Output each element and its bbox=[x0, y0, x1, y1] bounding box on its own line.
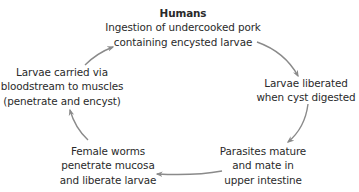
node-text: upper intestine bbox=[220, 173, 306, 187]
arrow-liberated-to-mature bbox=[288, 104, 308, 142]
node-parasites-mature: Parasites mature and mate in upper intes… bbox=[220, 144, 306, 187]
node-text: bloodstream to muscles bbox=[1, 79, 124, 93]
node-text: and liberate larvae bbox=[60, 173, 157, 187]
node-female-worms: Female worms penetrate mucosa and libera… bbox=[60, 144, 157, 187]
node-text: Larvae liberated bbox=[256, 76, 355, 90]
node-text: and mate in bbox=[220, 158, 306, 172]
node-text: Larvae carried via bbox=[1, 65, 124, 79]
node-text: penetrate mucosa bbox=[60, 158, 157, 172]
arrow-mature-to-female bbox=[157, 171, 222, 175]
node-text: (penetrate and encyst) bbox=[1, 94, 124, 108]
node-humans: Humans Ingestion of undercooked pork con… bbox=[105, 6, 261, 49]
node-title-humans: Humans bbox=[105, 6, 261, 20]
arrow-humans-to-liberated bbox=[257, 42, 298, 76]
node-text: when cyst digested bbox=[256, 90, 355, 104]
node-larvae-liberated: Larvae liberated when cyst digested bbox=[256, 76, 355, 105]
node-text: Ingestion of undercooked pork bbox=[105, 20, 261, 34]
arrow-carried-to-humans bbox=[85, 47, 113, 65]
node-text: containing encysted larvae bbox=[105, 35, 261, 49]
node-text: Parasites mature bbox=[220, 144, 306, 158]
arrow-female-to-carried bbox=[70, 110, 88, 140]
node-larvae-carried: Larvae carried via bloodstream to muscle… bbox=[1, 65, 124, 108]
node-text: Female worms bbox=[60, 144, 157, 158]
